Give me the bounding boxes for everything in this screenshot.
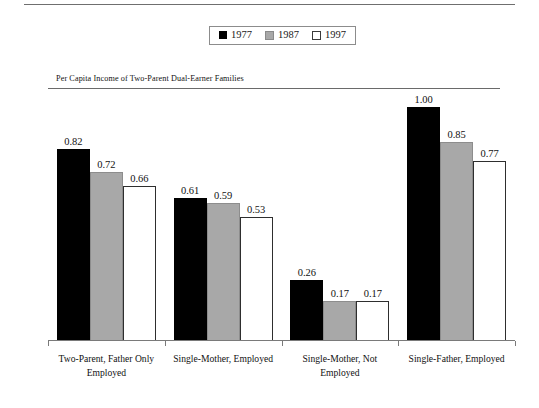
category-label-line: Single-Mother, Not <box>284 352 397 366</box>
bar-column: 0.82 <box>57 88 90 341</box>
category-label: Two-Parent, Father OnlyEmployed <box>48 352 165 379</box>
legend-item-1987[interactable]: 1987 <box>265 30 299 41</box>
top-divider-rule <box>24 4 515 5</box>
bar-value-label: 0.85 <box>447 129 465 140</box>
axis-tick <box>398 341 399 346</box>
bar-column: 0.61 <box>174 88 207 341</box>
bar-group: 1.000.850.77 <box>398 88 515 341</box>
filled-black-square-icon <box>219 31 227 39</box>
bar-value-label: 0.53 <box>247 204 265 215</box>
bar-value-label: 0.72 <box>97 159 115 170</box>
bar-value-label: 0.17 <box>331 288 349 299</box>
bar-value-label: 0.77 <box>480 148 498 159</box>
bar-column: 0.53 <box>240 88 273 341</box>
legend-label-1997: 1997 <box>325 30 346 41</box>
bar-1977[interactable] <box>290 280 323 341</box>
bar-column: 1.00 <box>407 88 440 341</box>
legend-item-1977[interactable]: 1977 <box>219 30 252 41</box>
plot-area: Per Capita Income of Two-Parent Dual-Ear… <box>48 88 515 341</box>
bar-1977[interactable] <box>407 107 440 341</box>
bar-1987[interactable] <box>90 172 123 341</box>
chart-figure: 1977 1987 1997 Per Capita Income of Two-… <box>0 0 539 408</box>
bar-1997[interactable] <box>356 301 389 341</box>
category-label-line: Employed <box>50 366 163 380</box>
axis-tick <box>282 341 283 346</box>
category-labels: Two-Parent, Father OnlyEmployedSingle-Mo… <box>48 352 515 379</box>
bar-1997[interactable] <box>473 161 506 341</box>
category-label-line: Employed <box>284 366 397 380</box>
category-label: Single-Father, Employed <box>398 352 515 379</box>
category-label-line: Two-Parent, Father Only <box>50 352 163 366</box>
legend-label-1987: 1987 <box>278 30 299 41</box>
bar-group: 0.610.590.53 <box>165 88 282 341</box>
bar-1997[interactable] <box>240 217 273 341</box>
bar-column: 0.17 <box>356 88 389 341</box>
outlined-white-square-icon <box>312 31 321 40</box>
bar-value-label: 0.61 <box>181 185 199 196</box>
bar-column: 0.17 <box>323 88 356 341</box>
bar-1987[interactable] <box>207 203 240 341</box>
bar-column: 0.66 <box>123 88 156 341</box>
category-label-line: Single-Father, Employed <box>400 352 513 366</box>
bar-group: 0.820.720.66 <box>48 88 165 341</box>
bar-column: 0.77 <box>473 88 506 341</box>
bar-1987[interactable] <box>323 301 356 341</box>
bar-column: 0.85 <box>440 88 473 341</box>
reference-line-label: Per Capita Income of Two-Parent Dual-Ear… <box>56 74 244 83</box>
bar-value-label: 0.26 <box>298 267 316 278</box>
bar-1997[interactable] <box>123 186 156 341</box>
category-label-line: Single-Mother, Employed <box>167 352 280 366</box>
bar-column: 0.26 <box>290 88 323 341</box>
chart-legend: 1977 1987 1997 <box>209 26 356 45</box>
bar-value-label: 0.66 <box>130 173 148 184</box>
bar-value-label: 0.82 <box>64 136 82 147</box>
bar-value-label: 0.17 <box>364 288 382 299</box>
bar-value-label: 1.00 <box>414 94 432 105</box>
bar-column: 0.72 <box>90 88 123 341</box>
bar-group: 0.260.170.17 <box>282 88 399 341</box>
filled-gray-square-icon <box>265 31 274 40</box>
bar-1987[interactable] <box>440 142 473 341</box>
bar-column: 0.59 <box>207 88 240 341</box>
category-label: Single-Mother, Employed <box>165 352 282 379</box>
bar-value-label: 0.59 <box>214 190 232 201</box>
legend-item-1997[interactable]: 1997 <box>312 30 346 41</box>
category-label: Single-Mother, NotEmployed <box>282 352 399 379</box>
bar-1977[interactable] <box>174 198 207 341</box>
axis-tick <box>515 341 516 346</box>
axis-tick <box>48 341 49 346</box>
bar-groups: 0.820.720.660.610.590.530.260.170.171.00… <box>48 88 515 341</box>
bar-1977[interactable] <box>57 149 90 341</box>
legend-label-1977: 1977 <box>231 30 252 41</box>
axis-tick <box>165 341 166 346</box>
